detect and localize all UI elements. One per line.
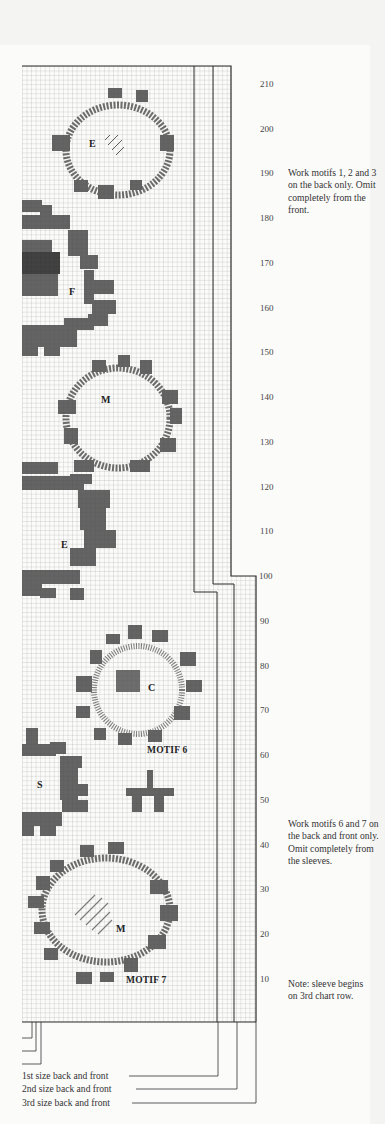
row-label-90: 90: [260, 616, 282, 626]
motif-6-title: MOTIF 6: [147, 745, 187, 755]
row-label-80: 80: [260, 661, 282, 671]
row-label-180: 180: [260, 213, 282, 223]
note-back-only: Work motifs 1, 2 and 3 on the back only.…: [288, 167, 383, 217]
row-label-60: 60: [260, 750, 282, 760]
row-label-160: 160: [260, 303, 282, 313]
motif-letter-s: S: [37, 779, 43, 790]
page: 210 200 190 180 170 160 150 140 130 120 …: [0, 0, 385, 1124]
row-label-40: 40: [260, 840, 282, 850]
row-label-50: 50: [260, 795, 282, 805]
row-label-150: 150: [260, 347, 282, 357]
row-label-120: 120: [260, 482, 282, 492]
note-back-and-front: Work motifs 6 and 7 on the back and fron…: [288, 818, 383, 868]
row-label-190: 190: [260, 168, 282, 178]
motif-letter-e-lower: E: [61, 539, 68, 550]
row-label-10: 10: [260, 974, 282, 984]
row-label-210: 210: [260, 79, 282, 89]
row-label-140: 140: [260, 392, 282, 402]
row-label-100: 100: [259, 571, 281, 581]
legend-size-1: 1st size back and front: [22, 1070, 108, 1081]
row-label-70: 70: [260, 705, 282, 715]
motif-letter-e-upper: E: [89, 138, 96, 149]
legend-size-3: 3rd size back and front: [22, 1097, 110, 1108]
row-label-30: 30: [260, 884, 282, 894]
row-label-170: 170: [260, 258, 282, 268]
motif-letter-m-motif7: M: [116, 923, 125, 934]
motif-letter-f: F: [69, 286, 75, 297]
motif-letter-c: C: [148, 682, 155, 693]
motif-letter-m-middle: M: [101, 394, 110, 405]
motif-7-title: MOTIF 7: [126, 975, 166, 985]
note-sleeve: Note: sleeve begins on 3rd chart row.: [288, 978, 368, 1003]
row-label-130: 130: [260, 437, 282, 447]
legend-size-2: 2nd size back and front: [22, 1083, 112, 1094]
row-label-110: 110: [260, 526, 282, 536]
row-label-20: 20: [260, 929, 282, 939]
row-label-200: 200: [260, 124, 282, 134]
